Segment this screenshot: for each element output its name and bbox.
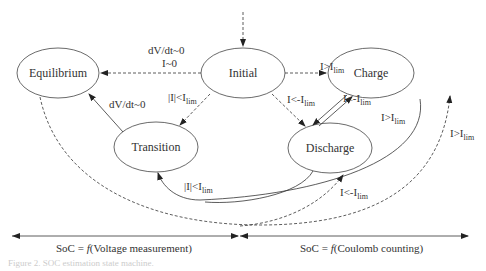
label-discharge-charge: I>Ilim	[381, 111, 405, 128]
label-transition-equilibrium: dV/dt~0	[109, 98, 146, 110]
label-sub: lim	[395, 117, 406, 126]
state-diagram	[0, 0, 486, 271]
arrow-charge-discharge	[313, 95, 347, 125]
label-text: |I|<I	[184, 180, 202, 192]
state-transition: Transition	[114, 140, 198, 155]
label-sub: lim	[464, 133, 475, 142]
caption-arg: (Coulomb counting)	[334, 242, 424, 254]
label-sub: lim	[360, 98, 371, 107]
label-text: I>I	[320, 60, 334, 72]
label-initial-charge: I>Ilim	[320, 60, 344, 77]
label-text: I>I	[381, 111, 395, 123]
label-text: I<-I	[340, 186, 357, 198]
label-equilibrium-discharge: I<-Ilim	[340, 186, 368, 203]
label-charge-transition: |I|<Ilim	[184, 180, 213, 197]
arrow-discharge-transition	[205, 171, 313, 203]
region-voltage-caption: SoC = f(Voltage measurement)	[56, 242, 192, 254]
label-text: |I|<I	[168, 91, 186, 103]
caption-arg: (Voltage measurement)	[90, 242, 192, 254]
label-initial-equilibrium-2: I~0	[162, 57, 177, 69]
label-charge-discharge: I<-Ilim	[343, 92, 371, 109]
label-sub: lim	[186, 97, 197, 106]
arrow-equilibrium-discharge	[240, 175, 343, 226]
label-sub: lim	[202, 186, 213, 195]
label-text: I<-I	[287, 93, 304, 105]
label-equilibrium-charge: I>Ilim	[450, 127, 474, 144]
label-initial-transition: |I|<Ilim	[168, 91, 197, 108]
state-discharge: Discharge	[288, 141, 372, 156]
region-coulomb-caption: SoC = f(Coulomb counting)	[300, 242, 423, 254]
figure-caption: Figure 2. SOC estimation state machine.	[8, 258, 154, 268]
label-sub: lim	[304, 99, 315, 108]
label-sub: lim	[357, 192, 368, 201]
label-initial-equilibrium-1: dV/dt~0	[148, 44, 185, 56]
caption-prefix: SoC =	[56, 242, 84, 254]
state-initial: Initial	[201, 66, 285, 81]
label-sub: lim	[334, 66, 345, 75]
state-equilibrium: Equilibrium	[17, 66, 99, 81]
label-initial-discharge: I<-Ilim	[287, 93, 315, 110]
label-text: I>I	[450, 127, 464, 139]
caption-prefix: SoC =	[300, 242, 328, 254]
label-text: I<-I	[343, 92, 360, 104]
